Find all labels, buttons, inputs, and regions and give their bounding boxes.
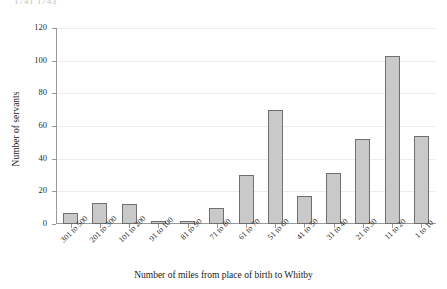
y-tick-label: 20 (39, 185, 48, 195)
y-tick-label: 0 (43, 218, 47, 228)
bar-chart: 1741 1743 0 20 40 60 80 100 120 (0, 0, 447, 289)
y-tick-label: 60 (39, 120, 48, 130)
bar[interactable] (326, 173, 341, 224)
bar-slot (144, 28, 173, 224)
y-axis: 0 20 40 60 80 100 120 Number of servants (0, 28, 56, 224)
y-tick-label: 80 (39, 87, 48, 97)
x-label-slot: 51 to 60 (261, 226, 290, 270)
bar-slot (319, 28, 348, 224)
bar-series (56, 28, 436, 224)
bar-slot (348, 28, 377, 224)
x-label-slot: 21 to 30 (348, 226, 377, 270)
bar-slot (114, 28, 143, 224)
bar[interactable] (385, 56, 400, 224)
y-axis-title: Number of servants (11, 64, 21, 194)
y-tick-label: 100 (34, 55, 47, 65)
x-label-slot: 81 to 90 (173, 226, 202, 270)
x-label-slot: 91 to 100 (144, 226, 173, 270)
x-label-slot: 301 to 500 (56, 226, 85, 270)
bar[interactable] (355, 139, 370, 224)
bar[interactable] (414, 136, 429, 224)
bar-slot (202, 28, 231, 224)
bar-slot (261, 28, 290, 224)
bar-slot (378, 28, 407, 224)
bar-slot (56, 28, 85, 224)
bar-slot (85, 28, 114, 224)
y-tick-mark (52, 224, 56, 225)
bar-slot (231, 28, 260, 224)
bar[interactable] (268, 110, 283, 224)
bar-slot (173, 28, 202, 224)
x-label-slot: 61 to 70 (231, 226, 260, 270)
y-tick-label: 120 (34, 22, 47, 32)
bar-slot (407, 28, 436, 224)
x-axis-tick-labels: 301 to 500201 to 300101 to 20091 to 1008… (56, 226, 436, 270)
top-caption-fragment: 1741 1743 (14, 0, 57, 6)
plot-area (56, 28, 436, 224)
y-tick-label: 40 (39, 153, 48, 163)
x-axis-title: Number of miles from place of birth to W… (0, 270, 447, 280)
x-label-slot: 11 to 20 (378, 226, 407, 270)
x-label-slot: 201 to 300 (85, 226, 114, 270)
x-label-slot: 41 to 50 (290, 226, 319, 270)
bar[interactable] (239, 175, 254, 224)
x-label-slot: 101 to 200 (114, 226, 143, 270)
x-label-slot: 31 to 40 (319, 226, 348, 270)
bar-slot (290, 28, 319, 224)
x-label-slot: 71 to 80 (202, 226, 231, 270)
x-label-slot: 1 to 10 (407, 226, 436, 270)
